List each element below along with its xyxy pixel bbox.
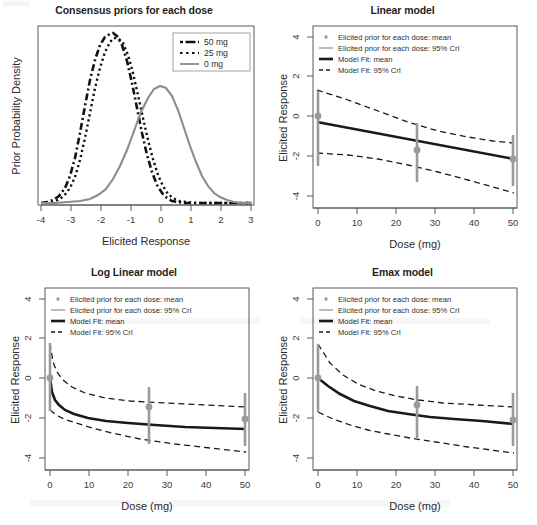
- data-point: [242, 416, 249, 423]
- legend-label-fit-mean: Model Fit: mean: [70, 317, 124, 326]
- legend-label-prior-ci: Elicited prior for each dose: 95% CrI: [70, 306, 192, 315]
- data-point: [510, 156, 517, 163]
- ytick-loglinear-1: 2: [22, 335, 33, 340]
- x-axis-emax: 0 10 20 30 40 50: [313, 470, 518, 490]
- ytick-emax-0: 4: [290, 296, 301, 301]
- ytick-loglinear-3: -2: [22, 414, 33, 422]
- y-axis-label-priors: Prior Probability Density: [10, 57, 22, 175]
- x-axis-linear: 0 10 20 30 40 50: [313, 208, 518, 228]
- legend-label-25mg: 25 mg: [204, 48, 228, 58]
- data-point: [510, 417, 517, 424]
- legend-label-50mg: 50 mg: [204, 37, 228, 47]
- xtick-priors-7: 3: [248, 214, 253, 225]
- xtick-linear-3: 30: [430, 217, 441, 228]
- xtick-linear-2: 20: [391, 217, 402, 228]
- ytick-loglinear-0: 4: [22, 296, 33, 301]
- xtick-emax-4: 40: [469, 479, 480, 490]
- xtick-emax-0: 0: [315, 479, 320, 490]
- data-point: [47, 375, 54, 382]
- x-axis-log-linear: 0 10 20 30 40 50: [45, 470, 250, 490]
- legend-label-prior-mean: Elicited prior for each dose: mean: [338, 295, 451, 304]
- data-point: [414, 147, 421, 154]
- plot-frame: [45, 288, 249, 470]
- ytick-linear-4: -4: [290, 192, 301, 200]
- xtick-priors-4: 0: [158, 214, 163, 225]
- y-axis-linear: 4 2 0 -2 -4: [290, 34, 313, 200]
- data-point: [414, 402, 421, 409]
- ytick-emax-2: 0: [290, 375, 301, 380]
- data-point: [146, 404, 153, 411]
- chart-log-linear-model: Elicited prior for each dose: mean Elici…: [0, 262, 268, 525]
- multi-panel-figure: Consensus priors for each dose 50 mg 25 …: [0, 0, 537, 525]
- y-axis-label-linear: Elicited Response: [277, 74, 289, 162]
- legend-label-fit-mean: Model Fit: mean: [338, 317, 392, 326]
- y-axis-log-linear: 4 2 0 -2 -4: [22, 296, 45, 462]
- xtick-linear-4: 40: [469, 217, 480, 228]
- xtick-linear-1: 10: [352, 217, 363, 228]
- ytick-emax-3: -2: [290, 414, 301, 422]
- chart-consensus-priors: 50 mg 25 mg 0 mg -4 -3 -2 -1: [0, 0, 268, 262]
- xtick-priors-0: -4: [37, 214, 45, 225]
- ytick-emax-1: 2: [290, 335, 301, 340]
- legend-label-fit-ci: Model Fit: 95% CrI: [338, 328, 401, 337]
- xtick-loglinear-0: 0: [47, 479, 52, 490]
- legend-swatch-prior-mean: [324, 297, 327, 300]
- data-point: [315, 113, 322, 120]
- legend-swatch-prior-mean: [56, 297, 59, 300]
- legend-label-prior-mean: Elicited prior for each dose: mean: [70, 295, 183, 304]
- xtick-loglinear-3: 30: [162, 479, 173, 490]
- y-axis-emax: 4 2 0 -2 -4: [290, 296, 313, 462]
- chart-emax-model: Elicited prior for each dose: mean Elici…: [268, 262, 537, 525]
- plot-frame: [313, 26, 517, 208]
- y-axis-label-loglinear: Elicited Response: [9, 336, 21, 424]
- legend-label-prior-ci: Elicited prior for each dose: 95% CrI: [338, 306, 460, 315]
- legend-swatch-prior-mean: [324, 35, 327, 38]
- xtick-priors-1: -3: [67, 214, 75, 225]
- xtick-emax-3: 30: [430, 479, 441, 490]
- legend-consensus-priors: 50 mg 25 mg 0 mg: [173, 33, 250, 71]
- xtick-loglinear-1: 10: [84, 479, 95, 490]
- legend-label-fit-ci: Model Fit: 95% CrI: [70, 328, 133, 337]
- panel-consensus-priors: Consensus priors for each dose 50 mg 25 …: [0, 0, 268, 262]
- xtick-emax-5: 50: [508, 479, 519, 490]
- legend-label-0mg: 0 mg: [204, 59, 223, 69]
- xtick-priors-6: 2: [218, 214, 223, 225]
- panel-log-linear-model: Log Linear model Elicited prior for each…: [0, 262, 268, 525]
- y-axis-label-emax: Elicited Response: [277, 336, 289, 424]
- ytick-linear-3: -2: [290, 152, 301, 160]
- xtick-loglinear-4: 40: [201, 479, 212, 490]
- ytick-linear-1: 2: [290, 73, 301, 78]
- ytick-linear-2: 0: [290, 113, 301, 118]
- xtick-priors-3: -1: [127, 214, 135, 225]
- plot-frame: [313, 288, 517, 470]
- legend-label-fit-ci: Model Fit: 95% CrI: [338, 66, 401, 75]
- ytick-linear-0: 4: [290, 34, 301, 39]
- x-axis-label-emax: Dose (mg): [389, 500, 440, 512]
- xtick-linear-0: 0: [315, 217, 320, 228]
- xtick-priors-2: -2: [97, 214, 105, 225]
- panel-linear-model: Linear model: [268, 0, 537, 262]
- x-axis-label-linear: Dose (mg): [389, 238, 440, 250]
- xtick-priors-5: 1: [188, 214, 193, 225]
- xtick-loglinear-5: 50: [240, 479, 251, 490]
- legend-label-prior-ci: Elicited prior for each dose: 95% CrI: [338, 44, 460, 53]
- x-axis-label-priors: Elicited Response: [102, 235, 190, 247]
- ytick-emax-4: -4: [290, 454, 301, 462]
- x-axis-label-loglinear: Dose (mg): [121, 500, 172, 512]
- legend-label-prior-mean: Elicited prior for each dose: mean: [338, 33, 451, 42]
- ytick-loglinear-2: 0: [22, 375, 33, 380]
- xtick-linear-5: 50: [508, 217, 519, 228]
- ytick-loglinear-4: -4: [22, 454, 33, 462]
- xtick-emax-1: 10: [352, 479, 363, 490]
- data-point: [315, 375, 322, 382]
- chart-linear-model: Elicited prior for each dose: mean Elici…: [268, 0, 537, 262]
- panel-emax-model: Emax model Elicited prior for each dose:…: [268, 262, 537, 525]
- x-axis-priors: -4 -3 -2 -1 0 1 2 3: [37, 205, 254, 225]
- xtick-emax-2: 20: [391, 479, 402, 490]
- xtick-loglinear-2: 20: [123, 479, 134, 490]
- legend-label-fit-mean: Model Fit: mean: [338, 55, 392, 64]
